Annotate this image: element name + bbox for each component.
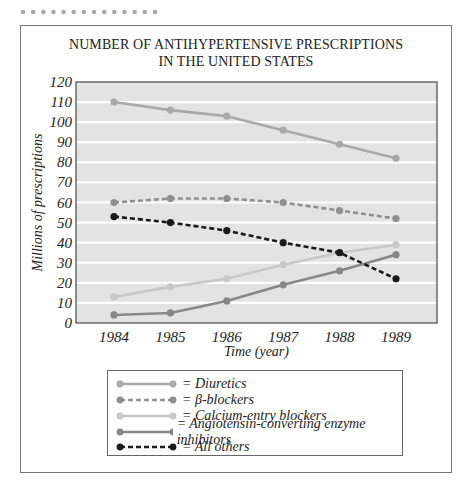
- data-point: [167, 195, 174, 202]
- data-point: [280, 127, 287, 134]
- data-point: [280, 261, 287, 268]
- data-point: [336, 249, 343, 256]
- legend-item-all-others: = All others: [116, 439, 250, 454]
- legend-line-icon: [116, 379, 178, 389]
- legend-line-icon: [116, 411, 178, 421]
- data-point: [392, 155, 399, 162]
- x-tick-label: 1984: [99, 329, 130, 345]
- y-tick-label: 70: [57, 174, 73, 190]
- data-point: [280, 199, 287, 206]
- x-tick-label: 1989: [381, 329, 412, 345]
- data-point: [110, 293, 117, 300]
- data-point: [223, 297, 230, 304]
- legend-label: = β-blockers: [182, 392, 254, 408]
- x-tick-label: 1987: [268, 329, 300, 345]
- data-point: [392, 241, 399, 248]
- data-point: [280, 239, 287, 246]
- y-tick-label: 30: [56, 255, 73, 271]
- legend-line-icon: [116, 395, 178, 405]
- y-tick-label: 100: [50, 114, 73, 130]
- data-point: [167, 283, 174, 290]
- x-tick-label: 1988: [325, 329, 356, 345]
- y-tick-label: 10: [57, 295, 73, 311]
- data-point: [167, 219, 174, 226]
- data-point: [280, 281, 287, 288]
- data-point: [336, 267, 343, 274]
- legend-item-diuretics: = Diuretics: [116, 376, 247, 391]
- y-tick-label: 120: [50, 74, 73, 90]
- data-point: [223, 227, 230, 234]
- legend-line-icon: [116, 427, 173, 437]
- data-point: [336, 207, 343, 214]
- legend-line-icon: [116, 442, 178, 452]
- y-tick-label: 20: [57, 275, 73, 291]
- x-tick-label: 1985: [155, 329, 186, 345]
- y-tick-label: 50: [57, 215, 73, 231]
- x-axis-label: Time (year): [224, 344, 289, 360]
- data-point: [392, 275, 399, 282]
- data-point: [110, 199, 117, 206]
- x-tick-label: 1986: [212, 329, 243, 345]
- legend-item-ace-inhibitors: = Angiotensin-converting enzyme inhibito…: [116, 424, 402, 439]
- y-tick-label: 80: [57, 154, 73, 170]
- data-point: [110, 311, 117, 318]
- y-tick-label: 40: [57, 235, 73, 251]
- chart-legend: = Diuretics = β-blockers = Calcium-entry…: [107, 370, 403, 456]
- data-point: [223, 195, 230, 202]
- legend-label: = Diuretics: [182, 376, 247, 392]
- y-tick-label: 0: [65, 315, 73, 331]
- y-tick-label: 60: [57, 195, 73, 211]
- y-tick-label: 110: [51, 94, 73, 110]
- y-tick-label: 90: [57, 134, 73, 150]
- data-point: [223, 113, 230, 120]
- line-chart: 0102030405060708090100110120198419851986…: [0, 0, 465, 370]
- legend-item-beta-blockers: = β-blockers: [116, 392, 254, 407]
- legend-label: = All others: [182, 439, 250, 455]
- data-point: [392, 251, 399, 258]
- data-point: [392, 215, 399, 222]
- y-axis-label: Millions of prescriptions: [30, 133, 45, 272]
- data-point: [336, 141, 343, 148]
- data-point: [167, 107, 174, 114]
- data-point: [167, 309, 174, 316]
- data-point: [110, 213, 117, 220]
- data-point: [223, 275, 230, 282]
- data-point: [110, 98, 117, 105]
